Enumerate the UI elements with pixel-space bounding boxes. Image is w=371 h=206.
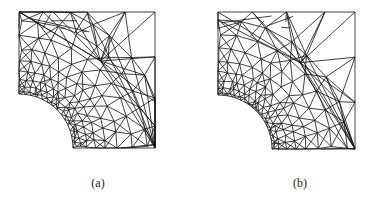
panel-b (185, 0, 371, 206)
mesh-diagram-b (185, 0, 371, 206)
panel-a-label: (a) (78, 176, 118, 191)
panel-b-label: (b) (280, 176, 320, 191)
